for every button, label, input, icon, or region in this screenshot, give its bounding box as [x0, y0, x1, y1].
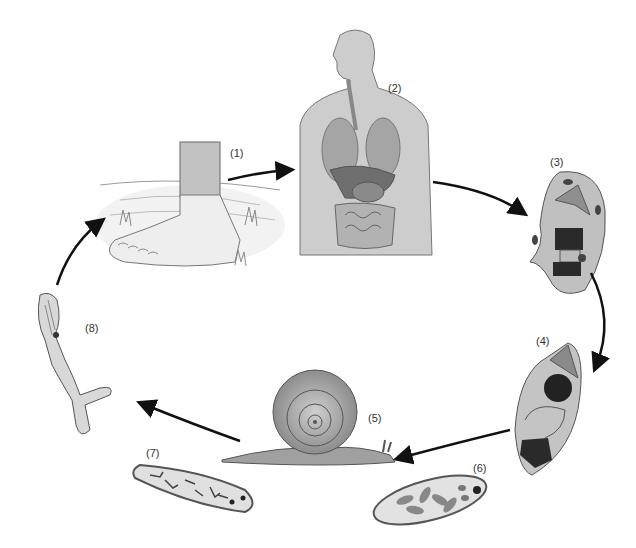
arrow-5-to-8 [143, 404, 240, 441]
stage-label-4: (4) [536, 335, 549, 347]
arrow-3-to-4 [591, 273, 604, 366]
arrow-2-to-3 [433, 182, 522, 212]
stage-3-larva [530, 172, 605, 294]
arrow-4-to-5 [400, 430, 510, 458]
stage-label-3: (3) [550, 156, 563, 168]
stage-label-5: (5) [368, 412, 381, 424]
stage-label-2: (2) [388, 82, 401, 94]
arrow-8-to-1 [57, 222, 100, 285]
stage-label-1: (1) [230, 147, 243, 159]
arrow-1-to-2 [228, 170, 288, 180]
stage-1-foot-in-water [95, 142, 285, 266]
stage-4-larva [515, 343, 581, 475]
stage-2-human-body [300, 30, 432, 255]
life-cycle-diagram: (1) (2) (3) (4) (5) (6) (7) (8) [0, 0, 636, 548]
stage-label-7: (7) [146, 447, 159, 459]
stage-label-6: (6) [473, 462, 486, 474]
stage-7-sporocyst-cercariae [133, 465, 252, 512]
stage-8-cercaria [38, 293, 111, 434]
stage-label-8: (8) [85, 322, 98, 334]
stage-6-sporocyst [369, 466, 491, 535]
